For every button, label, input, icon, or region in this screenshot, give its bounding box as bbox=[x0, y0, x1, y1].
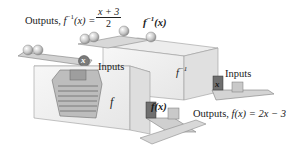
inverse-machine-top-label: f−1(x) bbox=[143, 16, 167, 28]
ball-input-variable: x bbox=[81, 56, 86, 65]
inputs-right-label: Inputs bbox=[225, 69, 251, 80]
f-machine bbox=[34, 66, 150, 134]
inverse-formula-fraction: x + 3 2 bbox=[96, 6, 121, 29]
f-machine-face-label: f bbox=[110, 96, 113, 108]
inverse-input-tray bbox=[212, 76, 274, 100]
inverse-output-label: Outputs, f−1(x) = bbox=[25, 14, 95, 26]
block-input-variable: x bbox=[215, 80, 220, 89]
inverse-machine-face-label: f−1 bbox=[176, 66, 187, 78]
f-output-label: Outputs, f(x) = 2x − 3 bbox=[193, 109, 286, 120]
function-machines-diagram: Outputs, f−1(x) = x + 3 2 f−1(x) f−1 x I… bbox=[0, 0, 302, 152]
inputs-left-label: Inputs bbox=[98, 62, 124, 73]
f-output-block-label: f(x) bbox=[151, 102, 167, 113]
